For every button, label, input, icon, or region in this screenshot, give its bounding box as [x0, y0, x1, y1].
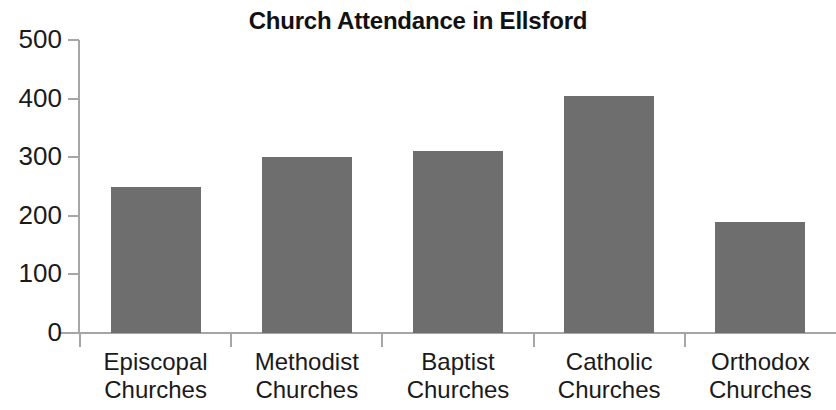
y-axis-tick-label: 0 — [0, 319, 62, 345]
x-axis-label-line: Churches — [382, 376, 533, 404]
x-axis-tick — [79, 334, 81, 347]
x-axis-label-line: Catholic — [534, 348, 685, 376]
y-axis-tick-label: 400 — [0, 85, 62, 111]
x-axis-tick — [381, 334, 383, 347]
x-axis-label-line: Churches — [80, 376, 231, 404]
x-axis-label-line: Orthodox — [685, 348, 836, 376]
x-axis-category-label: MethodistChurches — [231, 348, 382, 404]
plot-area — [78, 40, 836, 333]
x-axis-category-label: CatholicChurches — [534, 348, 685, 404]
chart-title: Church Attendance in Ellsford — [0, 7, 836, 35]
x-axis-label-line: Churches — [231, 376, 382, 404]
bar — [715, 222, 805, 333]
x-axis-label-line: Churches — [685, 376, 836, 404]
x-axis-category-label: OrthodoxChurches — [685, 348, 836, 404]
x-axis-label-line: Methodist — [231, 348, 382, 376]
y-axis-tick-label: 500 — [0, 26, 62, 52]
bar — [413, 151, 503, 333]
x-axis-category-label: BaptistChurches — [382, 348, 533, 404]
x-axis-tick — [684, 334, 686, 347]
x-axis-category-label: EpiscopalChurches — [80, 348, 231, 404]
x-axis-tick — [533, 334, 535, 347]
y-axis-tick-label: 300 — [0, 143, 62, 169]
y-axis-tick-label: 100 — [0, 260, 62, 286]
bar — [564, 96, 654, 333]
x-axis-label-line: Episcopal — [80, 348, 231, 376]
x-axis-tick — [230, 334, 232, 347]
x-axis-label-line: Churches — [534, 376, 685, 404]
x-axis-label-line: Baptist — [382, 348, 533, 376]
bar-chart: Church Attendance in Ellsford 5004003002… — [0, 0, 836, 410]
bar — [262, 157, 352, 333]
bar — [111, 187, 201, 334]
y-axis-tick-label: 200 — [0, 202, 62, 228]
